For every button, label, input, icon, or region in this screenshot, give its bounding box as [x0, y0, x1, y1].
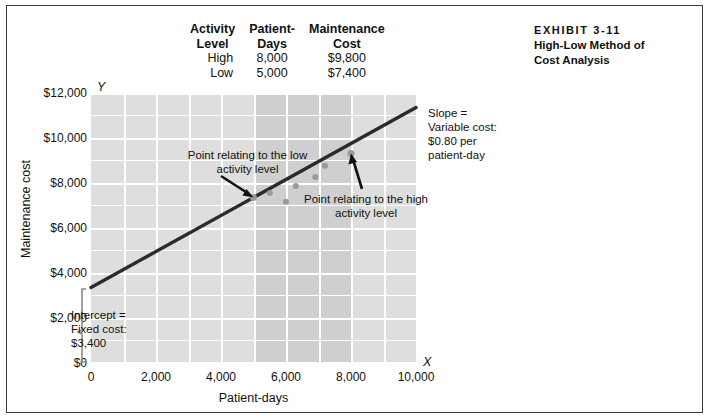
x-tick-label: 8,000	[336, 370, 366, 384]
scatter-chart: $12,000 $10,000 $8,000 $6,000 $4,000 $2,…	[7, 6, 704, 414]
y-tick-label: $0	[74, 356, 87, 370]
gridline-vertical	[319, 94, 321, 364]
y-axis-letter: Y	[97, 80, 105, 94]
y-tick-label: $10,000	[44, 131, 87, 145]
x-tick-label: 0	[88, 370, 95, 384]
annotation-low-activity: Point relating to the low activity level	[170, 148, 325, 176]
gridline-vertical	[351, 94, 353, 364]
y-tick-label: $4,000	[50, 266, 87, 280]
x-axis-title: Patient-days	[91, 391, 416, 405]
annotation-slope: Slope = Variable cost: $0.80 per patient…	[428, 106, 533, 162]
slope-line-3: $0.80 per	[428, 134, 533, 148]
y-axis-title: Maintenance cost	[19, 144, 33, 274]
y-tick-label: $6,000	[50, 221, 87, 235]
x-tick-label: 2,000	[141, 370, 171, 384]
annotation-intercept: Intercept = Fixed cost: $3,400	[71, 308, 191, 350]
slope-line-2: Variable cost:	[428, 120, 533, 134]
x-tick-label: 10,000	[398, 370, 435, 384]
slope-line-4: patient-day	[428, 148, 533, 162]
y-tick-label: $12,000	[44, 86, 87, 100]
x-tick-label: 6,000	[271, 370, 301, 384]
exhibit-page: Activity Level Patient- Days Maintenance…	[6, 5, 703, 413]
intercept-line-1: Intercept =	[71, 308, 191, 322]
annotation-high-activity: Point relating to the high activity leve…	[291, 192, 441, 220]
slope-line-1: Slope =	[428, 106, 533, 120]
intercept-line-3: $3,400	[71, 336, 191, 350]
y-tick-label: $8,000	[50, 176, 87, 190]
gridline-vertical	[254, 94, 256, 364]
gridline-vertical	[221, 94, 223, 364]
x-tick-label: 4,000	[206, 370, 236, 384]
x-axis-letter: X	[423, 355, 431, 369]
gridline-vertical	[384, 94, 386, 364]
intercept-line-2: Fixed cost:	[71, 322, 191, 336]
gridline-vertical	[286, 94, 288, 364]
